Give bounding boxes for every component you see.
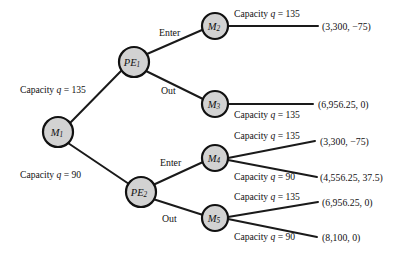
edge-m1-pe1	[70, 70, 122, 123]
node-m2[interactable]: M2	[202, 13, 228, 39]
payoff-label-4: (4,556.25, 37.5)	[320, 172, 383, 184]
action-label-pe1-enter: Enter	[159, 27, 181, 38]
node-pe2[interactable]: PE2	[126, 177, 156, 207]
capacity-label-m5-high: Capacity q = 135	[234, 191, 300, 202]
payoff-label-6: (8,100, 0)	[322, 232, 360, 244]
node-m5[interactable]: M5	[202, 205, 228, 231]
payoff-label-2: (6,956.25, 0)	[318, 99, 369, 111]
capacity-label-m1-pe1: Capacity q = 135	[20, 84, 86, 95]
edge-m5-payoff5	[228, 202, 318, 217]
capacity-label-m4-high: Capacity q = 135	[234, 130, 300, 141]
action-labels-group: Enter Out Enter Out	[159, 27, 182, 224]
payoff-label-3: (3,300, −75)	[320, 136, 369, 148]
payoff-label-5: (6,956.25, 0)	[322, 197, 373, 209]
capacity-label-m4-low: Capacity q = 90	[234, 171, 295, 182]
action-label-pe2-out: Out	[162, 213, 177, 224]
action-label-pe2-enter: Enter	[160, 157, 182, 168]
game-tree-diagram: M1 PE1 PE2 M2 M3 M4	[0, 0, 406, 268]
node-m3[interactable]: M3	[202, 91, 228, 117]
capacity-label-m3: Capacity q = 135	[234, 109, 300, 120]
payoff-label-1: (3,300, −75)	[322, 21, 371, 33]
capacity-label-m2: Capacity q = 135	[234, 8, 300, 19]
action-label-pe1-out: Out	[161, 85, 176, 96]
capacity-label-m1-pe2: Capacity q = 90	[20, 169, 81, 180]
node-m4[interactable]: M4	[202, 145, 228, 171]
node-pe1[interactable]: PE1	[119, 47, 149, 77]
node-m1[interactable]: M1	[43, 117, 73, 147]
edge-pe2-out-m5	[153, 199, 203, 215]
payoff-labels-group: (3,300, −75) (6,956.25, 0) (3,300, −75) …	[318, 21, 383, 244]
edge-m4-payoff3	[228, 141, 315, 158]
tree-svg: M1 PE1 PE2 M2 M3 M4	[0, 0, 406, 268]
capacity-label-m5-low: Capacity q = 90	[234, 231, 295, 242]
